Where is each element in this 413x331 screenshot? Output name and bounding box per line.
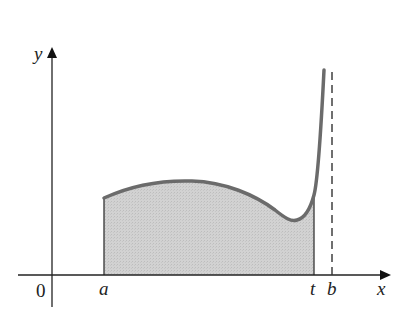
b-label: b [327,278,337,299]
shaded-area-region [104,181,314,275]
x-axis-label: x [376,278,386,299]
t-label: t [310,278,316,299]
a-label: a [99,278,109,299]
y-axis-label: y [32,43,43,64]
improper-integral-diagram: y x 0 a t b [0,0,413,331]
origin-label: 0 [36,280,46,301]
y-axis-arrow-icon [47,47,57,58]
